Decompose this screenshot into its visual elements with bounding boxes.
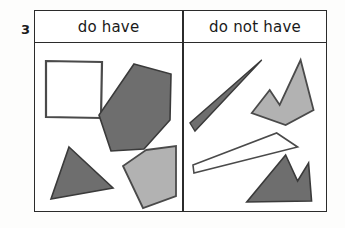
cell-do-have: [35, 43, 182, 211]
cell-do-not-have: [184, 43, 329, 211]
column-header-do-have: do have: [35, 11, 182, 43]
dark-mountain-polygon: [246, 155, 311, 202]
shape-group-do-not-have: [184, 43, 329, 211]
table-header-row: do have do not have: [35, 11, 326, 43]
column-header-do-not-have: do not have: [182, 11, 328, 43]
light-crown-polygon: [251, 60, 313, 125]
shape-group-do-have: [35, 43, 182, 211]
item-number-label: 3: [12, 22, 30, 37]
dark-hexagon: [99, 64, 171, 151]
light-pentagon: [123, 146, 176, 208]
white-square: [46, 61, 102, 118]
dark-sliver-triangle: [189, 60, 261, 131]
worksheet-exercise: 3 do have do not have: [0, 0, 345, 228]
dark-triangle: [51, 147, 113, 199]
sorting-table: do have do not have: [34, 10, 327, 212]
